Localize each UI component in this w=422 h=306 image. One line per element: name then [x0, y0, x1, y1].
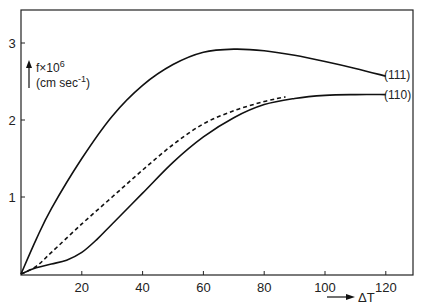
x-tick-label: 120 — [375, 280, 397, 295]
y-tick-label: 2 — [8, 113, 15, 128]
series-label-110: (110) — [384, 88, 411, 102]
x-tick-label: 40 — [135, 280, 149, 295]
x-tick-label: 60 — [196, 280, 210, 295]
y-axis-ticks: 123 — [8, 36, 25, 205]
y-tick-label: 3 — [8, 36, 15, 51]
line-chart: 20406080100120 123 f×106 (cm sec-1) ΔT (… — [0, 0, 422, 306]
x-tick-label: 20 — [75, 280, 89, 295]
svg-text:(cm sec-1): (cm sec-1) — [36, 74, 90, 90]
arrow-up-head-icon — [26, 60, 32, 68]
series-line — [21, 95, 386, 274]
y-axis-label: f×106 (cm sec-1) — [26, 59, 90, 90]
x-tick-label: 80 — [257, 280, 271, 295]
y-tick-label: 1 — [8, 190, 15, 205]
series-line — [21, 97, 285, 274]
x-tick-label: 100 — [314, 280, 336, 295]
arrow-right-head-icon — [346, 294, 355, 300]
series-label-111: (111) — [384, 68, 410, 82]
svg-text:ΔT: ΔT — [358, 290, 375, 305]
svg-text:f×106: f×106 — [36, 59, 65, 75]
